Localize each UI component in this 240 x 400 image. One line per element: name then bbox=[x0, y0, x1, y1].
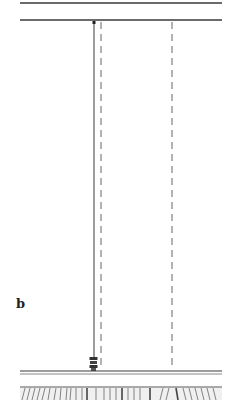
attachment-point-icon bbox=[93, 21, 96, 24]
weight-icon bbox=[90, 357, 98, 371]
panel-label: b bbox=[16, 296, 25, 311]
diagram-canvas bbox=[0, 0, 240, 400]
hatched-floor bbox=[20, 387, 222, 400]
